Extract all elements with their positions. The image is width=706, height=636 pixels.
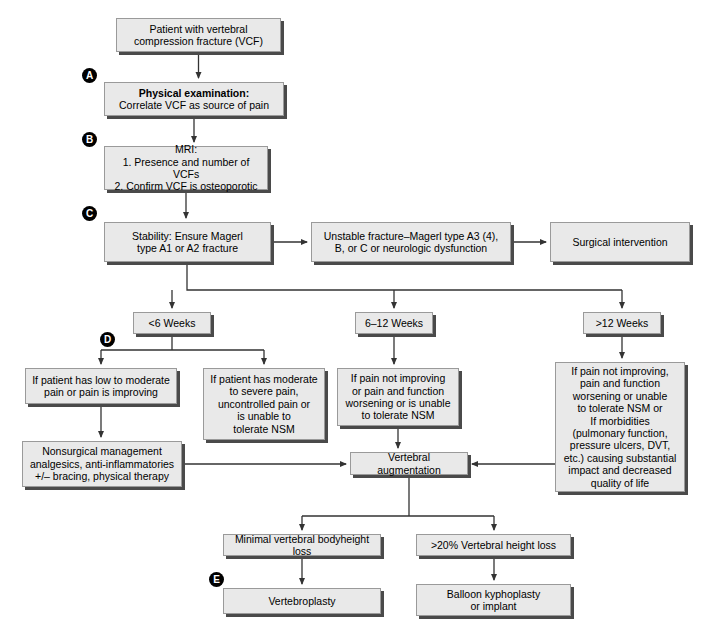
node-wk_gt12-label: >12 Weeks — [596, 317, 649, 329]
node-mri-label: MRI: 1. Presence and number of VCFs 2. C… — [109, 143, 263, 193]
node-gt20_loss: >20% Vertebral height loss — [416, 534, 571, 556]
node-physical_exam-heading: Physical examination: — [119, 87, 269, 99]
node-physical_exam: Physical examination:Correlate VCF as so… — [104, 82, 284, 116]
node-wk_lt6: <6 Weeks — [133, 312, 211, 334]
node-low_mod: If patient has low to moderate pain or p… — [25, 368, 177, 404]
node-vcf-label: Patient with vertebral compression fract… — [134, 23, 263, 48]
step-marker-b: B — [82, 132, 97, 147]
node-minimal_loss: Minimal vertebral bodyheight loss — [223, 534, 381, 556]
step-marker-a: A — [82, 68, 97, 83]
step-marker-c: C — [82, 206, 97, 221]
node-wk_6_12: 6–12 Weeks — [355, 312, 433, 334]
node-physical_exam-label: Correlate VCF as source of pain — [119, 99, 269, 111]
step-marker-e: E — [209, 572, 224, 587]
node-mod_severe: If patient has moderate to severe pain, … — [203, 368, 325, 440]
node-morbidities-label: If pain not improving, pain and function… — [564, 365, 677, 489]
node-stability-label: Stability: Ensure Magerl type A1 or A2 f… — [132, 230, 243, 255]
node-unstable: Unstable fracture–Magerl type A3 (4), B,… — [311, 222, 511, 262]
node-low_mod-label: If patient has low to moderate pain or p… — [32, 374, 170, 399]
node-mri: MRI: 1. Presence and number of VCFs 2. C… — [104, 146, 268, 190]
node-not_improving-label: If pain not improving or pain and functi… — [345, 372, 450, 422]
node-vert_aug: Vertebral augmentation — [350, 452, 468, 475]
node-unstable-label: Unstable fracture–Magerl type A3 (4), B,… — [324, 230, 499, 255]
node-wk_6_12-label: 6–12 Weeks — [365, 317, 423, 329]
node-surgical-label: Surgical intervention — [572, 236, 667, 248]
node-nonsurgical: Nonsurgical management analgesics, anti-… — [22, 441, 182, 487]
node-wk_gt12: >12 Weeks — [583, 312, 661, 334]
node-wk_lt6-label: <6 Weeks — [149, 317, 196, 329]
connector-aug-split — [302, 475, 494, 516]
node-vertebroplasty: Vertebroplasty — [223, 588, 381, 614]
node-surgical: Surgical intervention — [550, 222, 690, 262]
node-not_improving: If pain not improving or pain and functi… — [337, 368, 459, 426]
node-balloon-label: Balloon kyphoplasty or implant — [447, 588, 540, 613]
flowchart-root: Patient with vertebral compression fract… — [0, 0, 706, 636]
node-vertebroplasty-label: Vertebroplasty — [268, 595, 335, 607]
connector-stability-down-bus — [187, 262, 622, 290]
node-vcf: Patient with vertebral compression fract… — [116, 18, 281, 52]
node-vert_aug-label: Vertebral augmentation — [355, 451, 463, 476]
node-mod_severe-label: If patient has moderate to severe pain, … — [210, 373, 317, 435]
step-marker-d: D — [100, 332, 115, 347]
node-morbidities: If pain not improving, pain and function… — [555, 362, 685, 492]
connector-wk-lt6-split — [101, 334, 264, 350]
node-gt20_loss-label: >20% Vertebral height loss — [431, 539, 556, 551]
node-minimal_loss-label: Minimal vertebral bodyheight loss — [228, 533, 376, 558]
node-nonsurgical-label: Nonsurgical management analgesics, anti-… — [30, 445, 174, 482]
node-stability: Stability: Ensure Magerl type A1 or A2 f… — [104, 222, 271, 262]
node-balloon: Balloon kyphoplasty or implant — [416, 584, 571, 616]
